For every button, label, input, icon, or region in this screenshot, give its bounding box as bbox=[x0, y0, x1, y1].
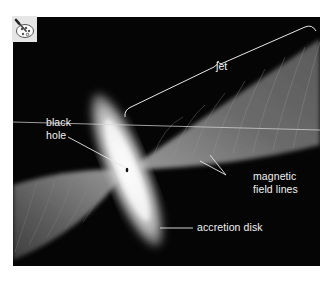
accretion-disk-label: accretion disk bbox=[197, 221, 263, 234]
jet-upper-right bbox=[127, 39, 320, 170]
palette-brush-icon bbox=[14, 18, 35, 40]
art-palette-icon-box bbox=[12, 16, 37, 42]
magnetic-field-label-line2: field lines bbox=[253, 183, 298, 196]
black-hole-label-line1: black bbox=[46, 116, 71, 129]
magnetic-field-label-line1: magnetic bbox=[253, 170, 296, 183]
black-hole-dot bbox=[126, 168, 129, 172]
black-hole-label-line2: hole bbox=[46, 129, 66, 142]
jet-lower-left bbox=[13, 170, 127, 260]
jet-label: jet bbox=[216, 60, 227, 73]
